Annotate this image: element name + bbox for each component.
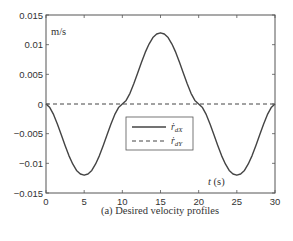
- x-axis-label: t (s): [208, 176, 225, 188]
- y-tick-label: 0.015: [19, 10, 43, 21]
- y-tick-label: 0.005: [19, 69, 43, 80]
- y-tick-label: −0.015: [14, 188, 43, 199]
- x-axis-ticks: 051015202530: [43, 15, 280, 207]
- legend-box: [126, 117, 193, 150]
- y-tick-label: 0.01: [25, 39, 44, 50]
- figure-caption: (a) Desired velocity profiles: [101, 205, 219, 217]
- x-tick-label: 30: [270, 196, 281, 207]
- y-tick-label: −0.005: [14, 128, 43, 139]
- x-tick-label: 25: [232, 196, 243, 207]
- velocity-chart: 0.0150.010.0050−0.005−0.01−0.015 0510152…: [0, 0, 293, 241]
- x-tick-label: 5: [82, 196, 87, 207]
- plot-area: [46, 33, 275, 175]
- y-tick-label: 0: [38, 99, 43, 110]
- y-tick-label: −0.01: [19, 158, 43, 169]
- y-axis-unit-label: m/s: [51, 26, 66, 37]
- x-tick-label: 0: [43, 196, 48, 207]
- legend: ṙdX ṙdY: [126, 117, 193, 150]
